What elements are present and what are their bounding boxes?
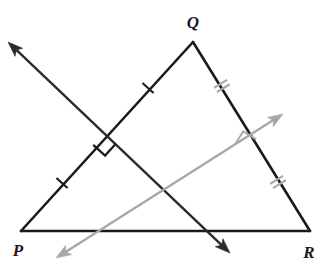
arrowhead-start-perpendicular-bisector-of-qr	[267, 114, 283, 127]
vertex-label-q: Q	[187, 13, 199, 32]
triangle-pqr	[21, 42, 310, 231]
ray-line-perpendicular-bisector-of-qr	[64, 119, 276, 253]
geometry-canvas: PQR	[0, 0, 322, 275]
arrowhead-end-perpendicular-bisector-of-qr	[56, 245, 72, 258]
vertex-label-p: P	[12, 241, 24, 260]
right-angle-markers	[93, 131, 256, 155]
vertex-labels: PQR	[12, 13, 315, 262]
perpendicular-bisector-rays	[8, 42, 283, 258]
vertex-label-r: R	[302, 243, 314, 262]
geometry-diagram: PQR	[0, 0, 322, 275]
